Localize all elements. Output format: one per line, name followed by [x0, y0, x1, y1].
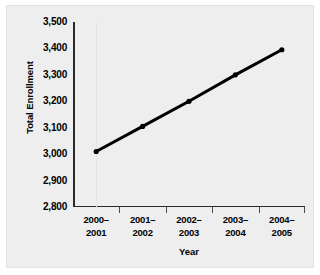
x-tick-label: 2000–2001	[73, 214, 119, 239]
x-tick-label-line: 2004	[212, 227, 258, 240]
x-tick-label: 2002–2003	[166, 214, 212, 239]
y-tick-label: 2,800	[25, 202, 67, 212]
y-tick-label: 3,300	[25, 70, 67, 80]
plot-area	[73, 22, 305, 207]
chart-panel: Total Enrollment 2,8002,9003,0003,1003,2…	[6, 5, 314, 268]
x-tick	[304, 207, 305, 213]
y-tick-label: 3,400	[25, 43, 67, 53]
x-tick-label-line: 2002	[119, 227, 165, 240]
data-point-marker	[186, 99, 191, 104]
x-tick-label-line: 2000–	[73, 214, 119, 227]
data-point-marker	[140, 124, 145, 129]
y-tick-label: 3,100	[25, 123, 67, 133]
x-tick	[166, 207, 167, 213]
enrollment-line-series	[73, 22, 305, 207]
x-tick-label-line: 2005	[259, 227, 305, 240]
y-tick-label: 3,000	[25, 149, 67, 159]
y-axis-tick-labels: 2,8002,9003,0003,1003,2003,3003,4003,500	[21, 6, 67, 269]
x-tick-label: 2003–2004	[212, 214, 258, 239]
x-tick	[259, 207, 260, 213]
x-tick-label-line: 2004–	[259, 214, 305, 227]
x-tick	[212, 207, 213, 213]
y-tick-label: 3,200	[25, 96, 67, 106]
x-axis-title: Year	[73, 246, 305, 257]
data-point-marker	[94, 149, 99, 154]
x-tick-label-line: 2002–	[166, 214, 212, 227]
x-tick-label-line: 2003	[166, 227, 212, 240]
x-tick-label: 2004–2005	[259, 214, 305, 239]
x-tick	[119, 207, 120, 213]
y-tick-label: 3,500	[25, 17, 67, 27]
x-axis-tick-labels: 2000–20012001–20022002–20032003–20042004…	[73, 214, 305, 248]
data-point-marker	[233, 72, 238, 77]
x-tick-label-line: 2003–	[212, 214, 258, 227]
x-tick-label: 2001–2002	[119, 214, 165, 239]
y-tick-label: 2,900	[25, 176, 67, 186]
data-point-marker	[279, 47, 284, 52]
x-tick-label-line: 2001	[73, 227, 119, 240]
x-tick-label-line: 2001–	[119, 214, 165, 227]
